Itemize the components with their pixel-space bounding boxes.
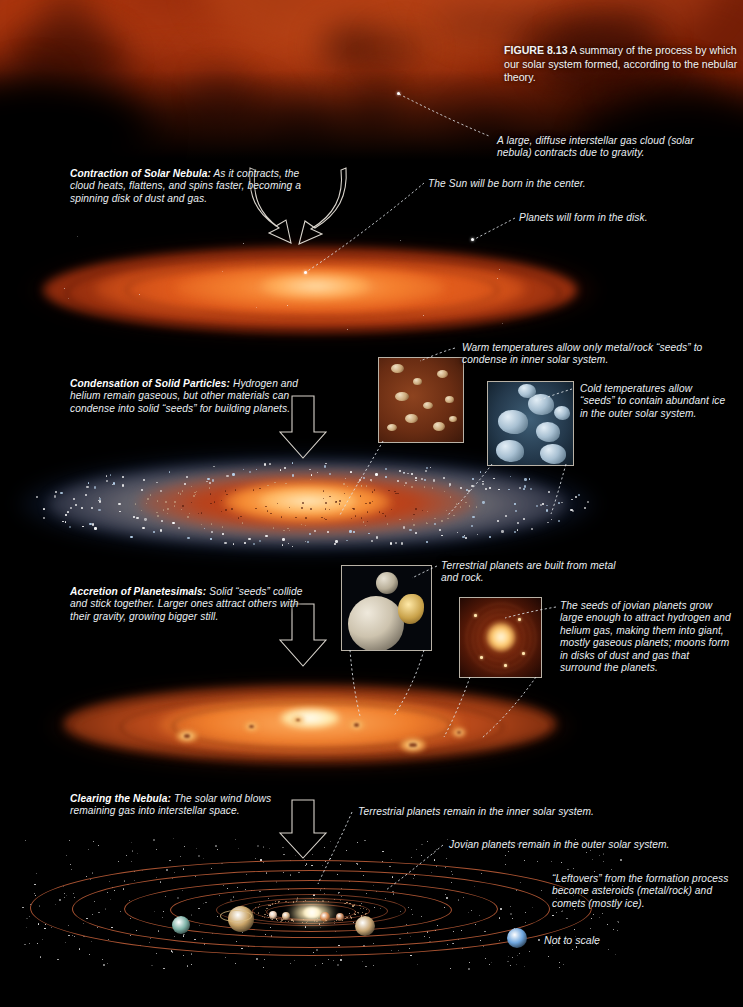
inset-planetesimal-collision	[341, 565, 432, 651]
figure-caption: FIGURE 8.13 A summary of the process by …	[504, 44, 740, 85]
stage-title-contraction: Contraction of Solar Nebula:	[70, 168, 211, 179]
inset-jovian-protoplanet	[459, 597, 542, 678]
inset-metal-rock-seeds	[378, 357, 464, 443]
inset-icy-seeds	[487, 381, 574, 466]
stage-heading-contraction: Contraction of Solar Nebula: As it contr…	[70, 168, 302, 205]
stage-title-accretion: Accretion of Planetesimals:	[70, 586, 206, 597]
annotation-terrestrial-remain: Terrestrial planets remain in the inner …	[358, 806, 658, 818]
stage-heading-clearing: Clearing the Nebula: The solar wind blow…	[70, 793, 300, 818]
stage-heading-condensation: Condensation of Solid Particles: Hydroge…	[70, 378, 306, 415]
annotation-planets-form: Planets will form in the disk.	[519, 212, 729, 224]
stage-title-clearing: Clearing the Nebula:	[70, 793, 171, 804]
annotation-terrestrial-built: Terrestrial planets are built from metal…	[441, 560, 621, 585]
solar-nebula-disk	[25, 236, 595, 344]
leader-dot-sun-center	[304, 271, 307, 274]
not-to-scale-label: Not to scale	[544, 934, 600, 946]
final-solar-system	[20, 838, 620, 968]
annotation-gas-cloud: A large, diffuse interstellar gas cloud …	[497, 135, 719, 160]
annotation-cold-seeds: Cold temperatures allow “seeds” to conta…	[580, 383, 728, 420]
annotation-sun-born: The Sun will be born in the center.	[428, 178, 668, 190]
annotation-jovian-grow: The seeds of jovian planets grow large e…	[560, 600, 732, 674]
annotation-jovian-remain: Jovian planets remain in the outer solar…	[449, 839, 739, 851]
figure-number: FIGURE 8.13	[504, 44, 568, 56]
stage-heading-accretion: Accretion of Planetesimals: Solid “seeds…	[70, 586, 308, 623]
stage-title-condensation: Condensation of Solid Particles:	[70, 378, 230, 389]
leader-dot-planets-disk	[471, 238, 474, 241]
condensation-disk	[18, 452, 596, 556]
annotation-warm-seeds: Warm temperatures allow only metal/rock …	[462, 342, 724, 367]
annotation-leftovers: “Leftovers” from the formation process b…	[552, 873, 738, 910]
accretion-disk	[48, 676, 572, 774]
leader-dot-gas-cloud	[397, 92, 400, 95]
figure-8-13: .arw{fill:none;stroke:#d9d4cc;stroke-wid…	[0, 0, 743, 1007]
